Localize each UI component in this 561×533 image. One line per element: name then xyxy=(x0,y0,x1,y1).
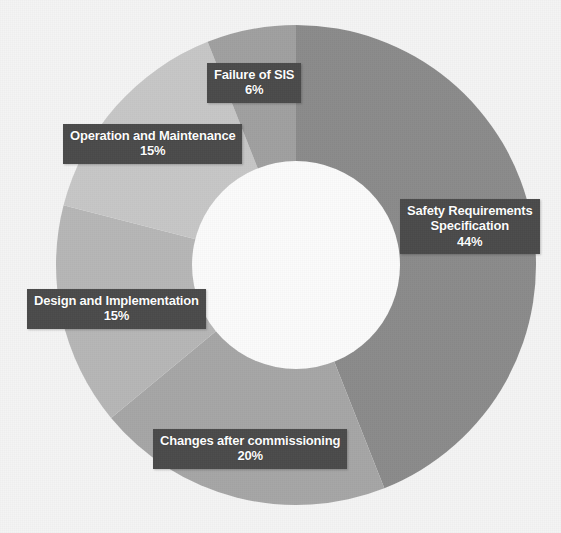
callout-category-line1: Changes after commissioning xyxy=(160,433,340,448)
callout-percent: 44% xyxy=(407,234,533,249)
donut-center-hole xyxy=(192,161,400,369)
callout-percent: 20% xyxy=(160,448,340,463)
slice-callout-design-and-implementation: Design and Implementation 15% xyxy=(27,289,206,329)
callout-category-line1: Failure of SIS xyxy=(214,67,294,82)
callout-percent: 6% xyxy=(214,82,294,97)
slice-callout-failure-of-sis: Failure of SIS 6% xyxy=(207,63,301,103)
donut-chart-figure: Safety Requirements Specification 44% Ch… xyxy=(0,0,561,533)
slice-callout-safety-requirements-specification: Safety Requirements Specification 44% xyxy=(400,199,540,254)
callout-percent: 15% xyxy=(70,143,235,158)
callout-category-line1: Design and Implementation xyxy=(34,293,199,308)
slice-callout-changes-after-commissioning: Changes after commissioning 20% xyxy=(153,429,347,469)
callout-category-line1: Operation and Maintenance xyxy=(70,128,235,143)
callout-category-line1: Safety Requirements xyxy=(407,203,533,218)
callout-category-line2: Specification xyxy=(407,218,533,233)
callout-percent: 15% xyxy=(34,308,199,323)
slice-callout-operation-and-maintenance: Operation and Maintenance 15% xyxy=(63,124,242,164)
